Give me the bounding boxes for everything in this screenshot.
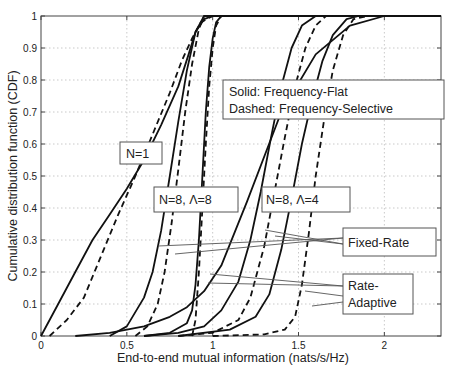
y-tick-label: 0.6 bbox=[23, 139, 37, 150]
annotation-n1: N=1 bbox=[120, 142, 162, 164]
y-axis-label: Cumulative distribution function (CDF) bbox=[6, 70, 20, 281]
svg-text:N=8, Λ=4: N=8, Λ=4 bbox=[266, 193, 319, 207]
x-tick-label: 2 bbox=[382, 340, 388, 351]
annotation-n8-lambda8: N=8, Λ=8 bbox=[154, 187, 238, 212]
y-tick-label: 0.8 bbox=[23, 75, 37, 86]
y-tick-label: 0.5 bbox=[23, 171, 37, 182]
y-tick-label: 0.3 bbox=[23, 235, 37, 246]
legend-dashed-label: Dashed: Frequency-Selective bbox=[229, 102, 393, 116]
y-tick-label: 1 bbox=[31, 11, 37, 22]
svg-text:N=1: N=1 bbox=[126, 147, 149, 161]
x-axis-label: End-to-end mutual information (nats/s/Hz… bbox=[117, 351, 349, 365]
x-tick-label: 1.5 bbox=[292, 340, 306, 351]
svg-text:Rate-: Rate- bbox=[348, 279, 379, 293]
annotation-n8-lambda4: N=8, Λ=4 bbox=[262, 187, 350, 212]
y-tick-label: 0 bbox=[31, 331, 37, 342]
cdf-chart: 00.511.5200.10.20.30.40.50.60.70.80.91 S… bbox=[0, 0, 450, 374]
x-tick-label: 0.5 bbox=[120, 340, 134, 351]
y-tick-label: 0.2 bbox=[23, 267, 37, 278]
y-tick-label: 0.7 bbox=[23, 107, 37, 118]
svg-text:N=8, Λ=8: N=8, Λ=8 bbox=[159, 193, 212, 207]
line-style-legend: Solid: Frequency-Flat Dashed: Frequency-… bbox=[223, 80, 444, 119]
x-tick-label: 0 bbox=[38, 340, 44, 351]
x-tick-label: 1 bbox=[210, 340, 216, 351]
annotation-rate-adaptive: Rate- Adaptive bbox=[343, 274, 413, 314]
y-tick-label: 0.4 bbox=[23, 203, 37, 214]
annotation-fixed-rate: Fixed-Rate bbox=[343, 228, 436, 256]
y-tick-label: 0.9 bbox=[23, 43, 37, 54]
svg-text:Adaptive: Adaptive bbox=[348, 296, 397, 310]
legend-solid-label: Solid: Frequency-Flat bbox=[229, 85, 348, 99]
svg-text:Fixed-Rate: Fixed-Rate bbox=[348, 236, 409, 250]
y-tick-label: 0.1 bbox=[23, 299, 37, 310]
